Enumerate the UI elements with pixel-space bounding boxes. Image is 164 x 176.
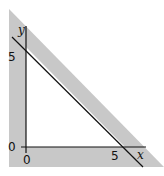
x-axis-label: x [137, 148, 144, 162]
x-tick-label-5: 5 [111, 149, 119, 163]
diagram-canvas: y x 5 5 0 0 [0, 0, 164, 176]
y-origin-label: 0 [8, 140, 16, 154]
y-tick-label-5: 5 [8, 50, 16, 64]
x-origin-label: 0 [23, 153, 31, 167]
y-axis-label: y [17, 23, 25, 37]
